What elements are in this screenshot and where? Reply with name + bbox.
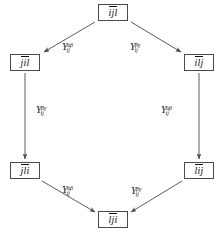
edge-label-subscript: ij bbox=[67, 190, 70, 196]
edge-label-lower-left-to-bottom: Yijαβ bbox=[62, 185, 73, 196]
node-label-lower-right: lij bbox=[195, 164, 204, 176]
node-lower-left: jli bbox=[10, 162, 40, 179]
edge-label-top-to-upper-right: Yijβγ bbox=[130, 42, 140, 53]
edge-layer bbox=[0, 0, 222, 239]
edge-label-subscript: ij bbox=[166, 110, 169, 116]
node-bottom: lji bbox=[98, 211, 128, 228]
edge-label-subscript: ij bbox=[136, 191, 139, 197]
edge-label-superscript: βγ bbox=[135, 42, 140, 48]
node-label-top: ijl bbox=[109, 6, 118, 18]
edge-label-superscript: βγ bbox=[41, 105, 46, 111]
edge-label-subscript: ij bbox=[67, 47, 70, 53]
edge-label-subscript: ij bbox=[41, 110, 44, 116]
edge-label-superscript: αβ bbox=[67, 42, 73, 48]
node-upper-left: jil bbox=[10, 54, 40, 71]
edge-label-superscript: αβ bbox=[67, 185, 73, 191]
node-label-lower-left: jli bbox=[21, 164, 30, 176]
edge-label-lower-right-to-bottom: Yijβγ bbox=[131, 186, 141, 197]
edge-label-top-to-upper-left: Yijαβ bbox=[62, 42, 73, 53]
node-label-bottom: lji bbox=[109, 213, 118, 225]
edge-label-upper-left-to-lower-left: Yijβγ bbox=[36, 105, 46, 116]
commutative-diagram: ijljililjjlilijlji YijαβYijβγYijβγYijαβY… bbox=[0, 0, 222, 239]
node-label-upper-right: ilj bbox=[195, 56, 204, 68]
node-label-upper-left: jil bbox=[21, 56, 30, 68]
node-lower-right: lij bbox=[184, 162, 214, 179]
edge-label-superscript: βγ bbox=[136, 186, 141, 192]
node-top: ijl bbox=[98, 4, 128, 21]
edge-label-superscript: αβ bbox=[166, 105, 172, 111]
edge-label-upper-right-to-lower-right: Yijαβ bbox=[161, 105, 172, 116]
node-upper-right: ilj bbox=[184, 54, 214, 71]
edge-label-subscript: ij bbox=[135, 47, 138, 53]
